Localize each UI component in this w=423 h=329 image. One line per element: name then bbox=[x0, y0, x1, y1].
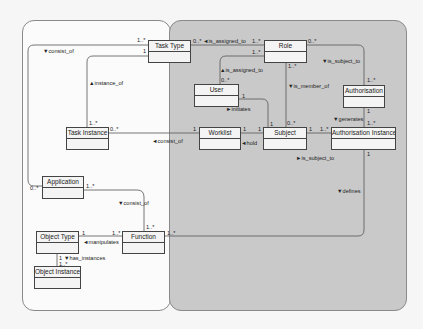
assoc-instance-of bbox=[87, 56, 148, 127]
class-attributes bbox=[37, 243, 78, 253]
class-attributes bbox=[200, 139, 240, 149]
class-attributes bbox=[35, 278, 80, 288]
label-consist-of: ◄consist_of bbox=[152, 138, 183, 145]
label-generates: ▼generates bbox=[333, 116, 363, 123]
class-attributes bbox=[332, 139, 395, 149]
label-initiates: ►initiates bbox=[226, 106, 251, 113]
multiplicity: 1 bbox=[82, 230, 85, 237]
class-name: Task Type bbox=[149, 41, 190, 52]
multiplicity: 1 bbox=[309, 126, 312, 133]
class-task-instance[interactable]: Task Instance bbox=[66, 127, 109, 150]
class-attributes bbox=[344, 97, 384, 107]
label-consist-of: ▼consist_of bbox=[118, 200, 149, 207]
multiplicity: 1..* bbox=[146, 224, 154, 231]
multiplicity: 1 bbox=[270, 121, 273, 128]
multiplicity: 1..* bbox=[167, 230, 175, 237]
multiplicity: 1..* bbox=[367, 77, 375, 84]
class-function[interactable]: Function bbox=[122, 231, 165, 254]
assoc-initiates bbox=[239, 99, 268, 127]
label-instance-of: ▲instance_of bbox=[89, 80, 123, 87]
label-is-member-of: ▼is_member_of bbox=[288, 83, 329, 90]
class-name: User bbox=[195, 85, 238, 96]
multiplicity: 1..* bbox=[59, 261, 67, 268]
multiplicity: 1 bbox=[367, 108, 370, 115]
multiplicity: 1 bbox=[367, 151, 370, 158]
class-user[interactable]: User bbox=[194, 84, 239, 107]
class-name: Authorisation Instance bbox=[332, 128, 395, 139]
multiplicity: 1..* bbox=[252, 49, 260, 56]
class-worklist[interactable]: Worklist bbox=[199, 127, 241, 150]
label-is-subject-to: ▼is_subject_to bbox=[322, 58, 360, 65]
multiplicity: 1..* bbox=[367, 120, 375, 127]
multiplicity: 1 bbox=[242, 93, 245, 100]
multiplicity: 0..* bbox=[193, 38, 201, 45]
class-name: Subject bbox=[264, 128, 306, 139]
class-object-instance[interactable]: Object Instance bbox=[34, 266, 81, 289]
class-application[interactable]: Application bbox=[42, 176, 84, 199]
multiplicity: 1 bbox=[193, 126, 196, 133]
class-attributes bbox=[149, 52, 190, 62]
multiplicity: 1..* bbox=[288, 63, 296, 70]
class-name: Authorisation bbox=[344, 86, 384, 97]
multiplicity: 1..* bbox=[137, 37, 145, 44]
class-name: Application bbox=[43, 177, 83, 188]
class-subject[interactable]: Subject bbox=[263, 127, 307, 150]
label-is-assigned-to: ▲is_assigned_to bbox=[220, 67, 263, 74]
class-attributes bbox=[265, 52, 306, 62]
multiplicity: 1..* bbox=[86, 183, 94, 190]
class-attributes bbox=[123, 243, 164, 253]
class-authorisation[interactable]: Authorisation bbox=[343, 85, 385, 108]
class-name: Function bbox=[123, 232, 164, 243]
label-is-assigned-to: ◄is_assigned_to bbox=[203, 38, 246, 45]
multiplicity: 0..* bbox=[287, 120, 295, 127]
class-attributes bbox=[264, 139, 306, 149]
multiplicity: 1..* bbox=[320, 126, 328, 133]
multiplicity: 0..* bbox=[30, 185, 38, 192]
multiplicity: 1..* bbox=[252, 38, 260, 45]
label-hold: ◄hold bbox=[241, 140, 257, 147]
class-name: Object Instance bbox=[35, 267, 80, 278]
label-manipulates: ◄manipulates bbox=[83, 239, 119, 246]
assoc-application-function bbox=[84, 190, 144, 231]
label-is-subject-to: ►is_subject_to bbox=[296, 155, 334, 162]
assoc-consist-of-tasktype-application bbox=[28, 45, 148, 186]
multiplicity: 1..* bbox=[89, 120, 97, 127]
class-authorisation-instance[interactable]: Authorisation Instance bbox=[331, 127, 396, 150]
class-attributes bbox=[43, 188, 83, 198]
class-object-type[interactable]: Object Type bbox=[36, 231, 79, 254]
multiplicity: 0..* bbox=[110, 126, 118, 133]
class-name: Role bbox=[265, 41, 306, 52]
multiplicity: 0..* bbox=[308, 38, 316, 45]
class-task-type[interactable]: Task Type bbox=[148, 40, 191, 63]
multiplicity: 1 bbox=[258, 126, 261, 133]
uml-class-diagram: Task Type Role User Authorisation Task I… bbox=[0, 0, 423, 329]
multiplicity: 0..* bbox=[221, 77, 229, 84]
label-has-instances: ▼has_instances bbox=[64, 255, 105, 262]
multiplicity: 1 bbox=[243, 126, 246, 133]
class-attributes bbox=[195, 96, 238, 106]
label-defines: ▼defines bbox=[337, 188, 361, 195]
assoc-role-authorisation bbox=[306, 45, 364, 85]
class-name: Worklist bbox=[200, 128, 240, 139]
assoc-defines bbox=[165, 149, 364, 236]
multiplicity: 1 bbox=[143, 48, 146, 55]
multiplicity: 1..* bbox=[112, 230, 120, 237]
class-name: Object Type bbox=[37, 232, 78, 243]
class-attributes bbox=[67, 139, 108, 149]
label-consist-of: ▼consist_of bbox=[43, 48, 74, 55]
class-name: Task Instance bbox=[67, 128, 108, 139]
class-role[interactable]: Role bbox=[264, 40, 307, 63]
